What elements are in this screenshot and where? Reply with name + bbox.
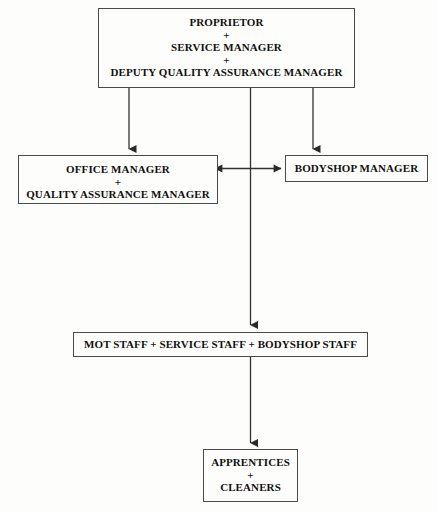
proprietor-role-3: DEPUTY QUALITY ASSURANCE MANAGER [111,66,343,80]
plus-separator: + [223,30,229,42]
proprietor-role-1: PROPRIETOR [189,16,263,30]
office-manager-node: OFFICE MANAGER + QUALITY ASSURANCE MANAG… [18,155,218,204]
plus-separator: + [223,55,229,67]
office-manager-role-2: QUALITY ASSURANCE MANAGER [26,188,210,202]
apprentices-node: APPRENTICES + CLEANERS [203,449,298,502]
bodyshop-manager-node: BODYSHOP MANAGER [285,155,428,182]
proprietor-node: PROPRIETOR + SERVICE MANAGER + DEPUTY QU… [98,8,355,88]
staff-node: MOT STAFF + SERVICE STAFF + BODYSHOP STA… [73,332,368,357]
plus-separator: + [115,177,121,189]
apprentices-role-2: CLEANERS [220,481,281,495]
apprentices-role-1: APPRENTICES [211,456,290,470]
org-chart-diagram: PROPRIETOR + SERVICE MANAGER + DEPUTY QU… [0,0,438,512]
proprietor-role-2: SERVICE MANAGER [171,41,282,55]
plus-separator: + [247,470,253,482]
office-manager-role-1: OFFICE MANAGER [66,163,170,177]
staff-roles: MOT STAFF + SERVICE STAFF + BODYSHOP STA… [84,338,357,352]
bodyshop-manager-role-1: BODYSHOP MANAGER [295,162,419,176]
